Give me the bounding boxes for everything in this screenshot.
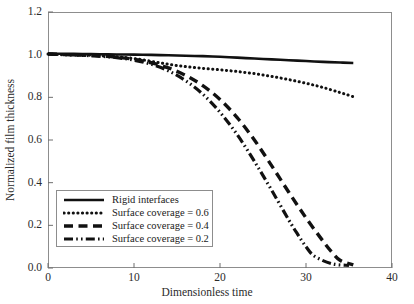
x-tick-label: 10 xyxy=(128,272,140,284)
chart-legend: Rigid interfacesSurface coverage = 0.6Su… xyxy=(56,190,213,247)
y-axis-title-wrapper: Normalized film thickness xyxy=(2,12,18,268)
legend-line-swatch xyxy=(63,194,105,206)
legend-line-swatch xyxy=(63,220,105,232)
legend-line-swatch xyxy=(63,207,105,219)
legend-line-swatch xyxy=(63,233,105,245)
legend-item-label: Surface coverage = 0.2 xyxy=(112,233,209,245)
x-tick-label: 40 xyxy=(386,272,398,284)
legend-item-label: Surface coverage = 0.4 xyxy=(112,220,209,232)
legend-item: Surface coverage = 0.2 xyxy=(57,233,212,246)
y-axis-title: Normalized film thickness xyxy=(4,79,16,201)
chart-figure: 0.00.20.40.60.81.01.2 010203040 Normaliz… xyxy=(0,0,414,304)
x-tick-label: 20 xyxy=(214,272,226,284)
legend-item: Surface coverage = 0.6 xyxy=(57,207,212,220)
x-axis-title: Dimensionless time xyxy=(0,286,414,298)
legend-item: Rigid interfaces xyxy=(57,194,212,207)
legend-item-label: Rigid interfaces xyxy=(112,194,179,206)
legend-item-label: Surface coverage = 0.6 xyxy=(112,207,209,219)
x-tick-label: 0 xyxy=(45,272,51,284)
legend-item: Surface coverage = 0.4 xyxy=(57,220,212,233)
x-tick-label: 30 xyxy=(300,272,312,284)
